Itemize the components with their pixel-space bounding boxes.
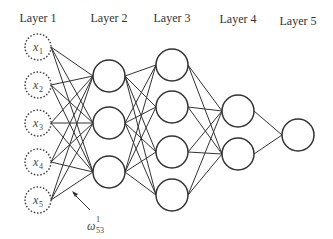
input-label: x (32, 116, 39, 130)
edge (51, 123, 93, 172)
neuron-node (282, 119, 314, 151)
layer-label-3: Layer 3 (154, 11, 191, 25)
neuron-node (156, 136, 188, 168)
neuron-node (93, 107, 125, 139)
edge (254, 135, 282, 154)
input-label: x (32, 155, 39, 169)
edge (188, 154, 222, 195)
edge (188, 111, 222, 152)
neuron-node (222, 138, 254, 170)
neural-network-diagram: x1x2x3x4x5 Layer 1Layer 2Layer 3Layer 4L… (0, 0, 333, 239)
layer-label-4: Layer 4 (220, 12, 257, 26)
input-subscript: 2 (39, 85, 43, 94)
input-label: x (32, 78, 39, 92)
neuron-node (222, 95, 254, 127)
arrow-head-icon (72, 191, 78, 197)
weight-subscript: 53 (96, 226, 104, 235)
neuron-node (156, 91, 188, 123)
neuron-node (156, 49, 188, 81)
input-subscript: 4 (39, 162, 43, 171)
layer-label-1: Layer 1 (20, 11, 57, 25)
layer-label-5: Layer 5 (280, 14, 317, 28)
weight-annotation: ω 1 53 (72, 191, 104, 235)
edge (51, 47, 93, 172)
input-label: x (32, 193, 39, 207)
edge (51, 85, 93, 123)
edge (51, 162, 93, 172)
neuron-node (93, 60, 125, 92)
input-label: x (32, 40, 39, 54)
edge (51, 76, 93, 123)
edge (51, 123, 93, 200)
layer-label-2: Layer 2 (91, 11, 128, 25)
edge (254, 111, 282, 135)
neuron-node (93, 156, 125, 188)
edge (51, 47, 93, 76)
neuron-node (156, 179, 188, 211)
input-subscript: 5 (39, 200, 43, 209)
edge (51, 47, 93, 123)
edge (188, 107, 222, 154)
weight-symbol: ω (87, 219, 95, 233)
input-subscript: 1 (39, 47, 43, 56)
edge (188, 111, 222, 195)
layer-labels: Layer 1Layer 2Layer 3Layer 4Layer 5 (20, 11, 317, 28)
edge (125, 123, 156, 152)
input-subscript: 3 (39, 123, 43, 132)
edge (188, 65, 222, 111)
weight-superscript: 1 (96, 215, 100, 224)
edge (51, 76, 93, 200)
edge (51, 76, 93, 162)
edge (51, 172, 93, 200)
